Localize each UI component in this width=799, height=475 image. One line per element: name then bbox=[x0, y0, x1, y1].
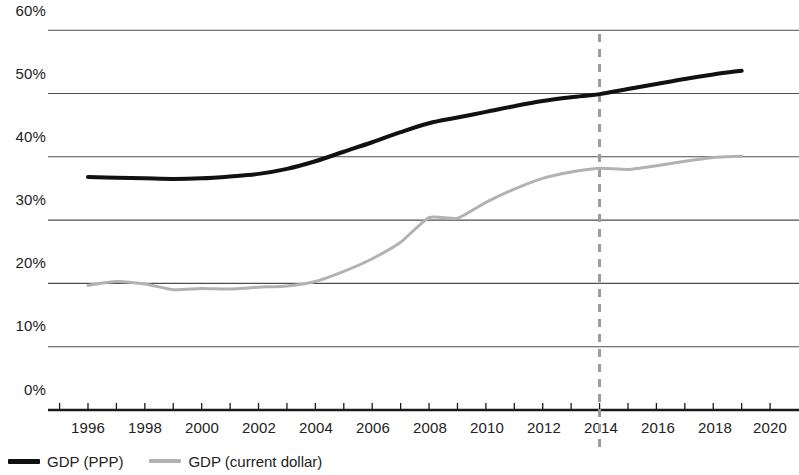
legend-item-gdp-ppp[interactable]: GDP (PPP) bbox=[8, 453, 123, 470]
data-series-group bbox=[88, 71, 742, 290]
legend-item-gdp-current-dollar[interactable]: GDP (current dollar) bbox=[149, 453, 322, 470]
legend-label-gdp-current-dollar: GDP (current dollar) bbox=[188, 453, 322, 470]
legend-label-gdp-ppp: GDP (PPP) bbox=[47, 453, 123, 470]
plot-area bbox=[0, 0, 799, 475]
legend-swatch-line-icon bbox=[149, 459, 181, 463]
chart-container: 60% 50% 40% 30% 20% 10% 0% 1996 1998 200… bbox=[0, 0, 799, 475]
series-line-gdp-ppp bbox=[88, 71, 742, 179]
series-line-gdp-current-dollar bbox=[88, 156, 742, 290]
legend-swatch-line-icon bbox=[8, 459, 40, 464]
legend: GDP (PPP) GDP (current dollar) bbox=[8, 450, 322, 472]
